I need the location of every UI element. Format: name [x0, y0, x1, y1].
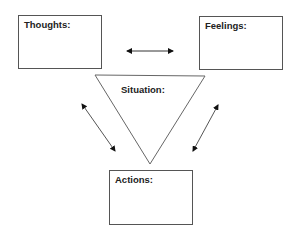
thoughts-label: Thoughts: — [24, 19, 70, 30]
thoughts-box: Thoughts: — [18, 15, 102, 69]
feelings-box: Feelings: — [199, 16, 283, 70]
arrow-thoughts-actions — [82, 104, 115, 151]
feelings-label: Feelings: — [205, 20, 247, 31]
actions-label: Actions: — [115, 174, 153, 185]
arrow-feelings-actions — [193, 105, 218, 151]
situation-label: Situation: — [121, 84, 165, 95]
actions-box: Actions: — [109, 170, 193, 225]
